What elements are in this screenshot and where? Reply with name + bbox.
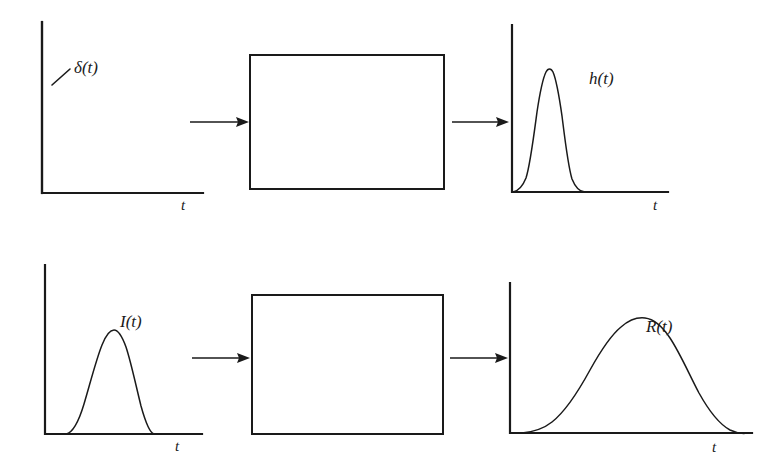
axis-bottom-left <box>45 265 202 434</box>
curve-h-t <box>513 69 592 192</box>
label-i-t: I(t) <box>119 312 142 331</box>
arrow-system-to-response <box>450 353 508 363</box>
label-h-t: h(t) <box>589 69 614 88</box>
panel-general-input: I(t) t <box>45 265 202 454</box>
arrow-impulse-to-system <box>190 117 249 127</box>
curve-r-t <box>522 318 748 434</box>
system-box-top <box>250 55 444 189</box>
axis-bottom-right <box>510 283 752 433</box>
system-box-rect <box>250 55 444 189</box>
axis-top-left <box>42 22 203 193</box>
figure-root: δ(t) t h(t) t I(t) <box>0 0 784 475</box>
axis-top-right <box>512 25 668 192</box>
arrow-system-to-impulse-response <box>452 117 509 127</box>
label-r-t: R(t) <box>645 317 673 336</box>
panel-impulse-response: h(t) t <box>512 25 668 213</box>
block-diagram-svg: δ(t) t h(t) t I(t) <box>0 0 784 475</box>
arrow-input-to-system <box>192 353 250 363</box>
delta-pointer-line <box>52 69 70 85</box>
axis-label-t-top-right: t <box>653 197 658 213</box>
axis-label-t-bottom-left: t <box>175 438 180 454</box>
axis-label-t-top-left: t <box>181 197 186 213</box>
label-delta-t: δ(t) <box>74 58 98 77</box>
panel-response: R(t) t <box>510 283 752 455</box>
curve-i-t <box>48 330 161 434</box>
axis-label-t-bottom-right: t <box>712 439 717 455</box>
system-box-rect <box>252 295 443 434</box>
panel-impulse-input: δ(t) t <box>42 22 203 213</box>
system-box-bottom <box>252 295 443 434</box>
